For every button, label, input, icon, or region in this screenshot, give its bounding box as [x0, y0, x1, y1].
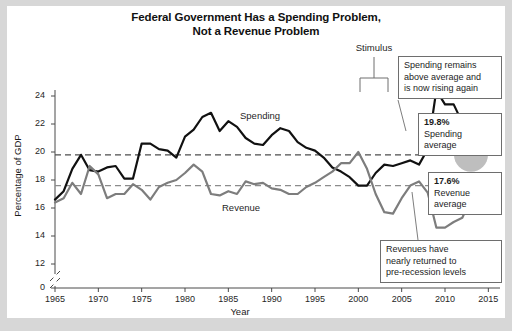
callout-spending-remains-line-3: is now rising again: [404, 83, 497, 95]
revenue-average-line-2: average: [434, 199, 497, 211]
series-label-revenue: Revenue: [222, 202, 260, 213]
y-tick-20: 20: [23, 146, 45, 156]
series-label-spending: Spending: [240, 110, 280, 121]
x-tick-1985: 1985: [208, 294, 248, 304]
y-tick-0: 0: [23, 282, 45, 292]
x-tick-1990: 1990: [252, 294, 292, 304]
x-tick-1995: 1995: [295, 294, 335, 304]
callout-spending-remains-line-2: above average and: [404, 72, 497, 84]
callout-revenues-returned-line-3: pre-recession levels: [386, 267, 497, 279]
y-axis-label: Percentage of GDP: [12, 116, 23, 236]
x-tick-2015: 2015: [468, 294, 508, 304]
x-tick-2005: 2005: [382, 294, 422, 304]
y-tick-14: 14: [23, 230, 45, 240]
callout-spending-remains-line-1: Spending remains: [404, 60, 497, 72]
callout-revenues-returned: Revenues have nearly returned to pre-rec…: [380, 240, 502, 283]
revenue-average-value: 17.6%: [434, 176, 497, 188]
callout-spending-remains: Spending remains above average and is no…: [398, 56, 502, 99]
callout-revenues-returned-line-2: nearly returned to: [386, 256, 497, 268]
x-tick-1970: 1970: [78, 294, 118, 304]
stimulus-annotation-label: Stimulus: [341, 42, 407, 53]
x-tick-1965: 1965: [35, 294, 75, 304]
spending-average-line-1: Spending: [424, 129, 497, 141]
x-tick-1980: 1980: [165, 294, 205, 304]
spending-average-value: 19.8%: [424, 117, 497, 129]
x-tick-1975: 1975: [122, 294, 162, 304]
y-tick-12: 12: [23, 258, 45, 268]
y-tick-22: 22: [23, 118, 45, 128]
revenue-average-line-1: Revenue: [434, 188, 497, 200]
chart-figure: Federal Government Has a Spending Proble…: [0, 0, 512, 331]
x-tick-2000: 2000: [338, 294, 378, 304]
spending-average-line-2: average: [424, 140, 497, 152]
y-tick-16: 16: [23, 202, 45, 212]
y-tick-18: 18: [23, 174, 45, 184]
callout-revenues-returned-line-1: Revenues have: [386, 244, 497, 256]
x-axis-label: Year: [180, 306, 300, 317]
x-tick-2010: 2010: [425, 294, 465, 304]
callout-revenue-average: 17.6% Revenue average: [428, 172, 502, 215]
callout-spending-average: 19.8% Spending average: [418, 113, 502, 156]
y-tick-24: 24: [23, 90, 45, 100]
